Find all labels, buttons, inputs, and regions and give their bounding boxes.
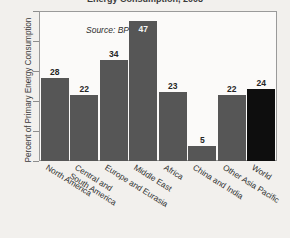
chart-figure: Energy Consumption, 2008 Percent of Prim…	[0, 0, 290, 238]
bar-value-label: 34	[100, 49, 128, 59]
x-axis-tick-label: China and India	[191, 163, 245, 201]
bar[interactable]	[70, 95, 98, 161]
bar-slot: 5	[188, 12, 216, 161]
bar-value-label: 22	[218, 84, 246, 94]
x-axis-tick-label-line: China and India	[191, 163, 245, 201]
bar[interactable]	[188, 146, 216, 161]
x-axis-labels: North AmericaCentral andSouth AmericaEur…	[40, 163, 276, 238]
bar-value-label: 5	[188, 135, 216, 145]
bar-value-label: 22	[70, 84, 98, 94]
bar-slot: 22	[218, 12, 246, 161]
bar[interactable]	[159, 92, 187, 161]
bar-value-label: 28	[41, 67, 69, 77]
bar-slot: 34	[100, 12, 128, 161]
chart-title-cropped: Energy Consumption, 2008	[0, 0, 290, 5]
y-axis-label: Percent of Primary Energy Consumption	[23, 10, 33, 170]
bar-slot: 28	[41, 12, 69, 161]
x-axis-tick-label-line: Africa	[162, 163, 185, 182]
bar-slot: 22	[70, 12, 98, 161]
y-axis-tick-mark	[33, 161, 39, 162]
bar[interactable]	[218, 95, 246, 161]
x-axis-tick-label: Africa	[162, 163, 185, 182]
bar[interactable]	[247, 89, 275, 161]
bar-value-label: 23	[159, 81, 187, 91]
bar-value-label: 24	[247, 78, 275, 88]
chart-title-text: Energy Consumption, 2008	[87, 0, 203, 4]
bar-value-label: 47	[129, 24, 157, 34]
bar[interactable]	[129, 21, 157, 161]
bar-slot: 24	[247, 12, 275, 161]
bar-slot: 47	[129, 12, 157, 161]
bar[interactable]	[41, 78, 69, 161]
bar[interactable]	[100, 60, 128, 161]
bar-series: 282234472352224	[40, 12, 276, 161]
bar-slot: 23	[159, 12, 187, 161]
